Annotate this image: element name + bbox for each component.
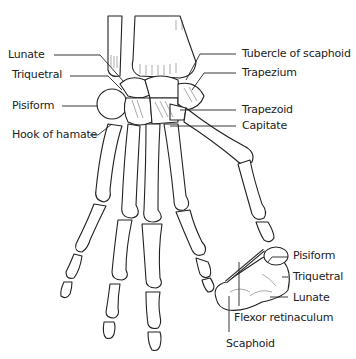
label-pisiform: Pisiform — [12, 100, 54, 112]
label-hook-of-hamate: Hook of hamate — [12, 129, 97, 141]
label-triquetral: Triquetral — [12, 69, 62, 81]
label-capitate: Capitate — [242, 120, 287, 132]
inset-label-triquetral: Triquetral — [293, 271, 343, 283]
index-finger-phalanges — [176, 210, 214, 292]
inset-label-scaphoid: Scaphoid — [226, 338, 275, 350]
label-lunate: Lunate — [8, 49, 45, 61]
thumb-phalanges — [238, 160, 274, 242]
inset-label-lunate: Lunate — [293, 292, 330, 304]
radius-bone — [132, 16, 196, 78]
inset-label-pisiform: Pisiform — [293, 250, 335, 262]
hand-wrist-anatomy-diagram: Lunate Triquetral Pisiform Hook of hamat… — [0, 0, 356, 359]
carpal-tunnel-inset — [215, 247, 289, 310]
label-trapezoid: Trapezoid — [242, 104, 293, 116]
ulna-bone — [108, 16, 122, 76]
middle-finger-phalanges — [142, 224, 162, 351]
label-tubercle-of-scaphoid: Tubercle of scaphoid — [242, 48, 351, 60]
label-trapezium: Trapezium — [242, 67, 297, 79]
metacarpal-bones — [96, 108, 253, 222]
ring-finger-phalanges — [103, 220, 132, 339]
inset-label-flexor-retinaculum: Flexor retinaculum — [234, 312, 333, 324]
little-finger-phalanges — [61, 204, 106, 298]
